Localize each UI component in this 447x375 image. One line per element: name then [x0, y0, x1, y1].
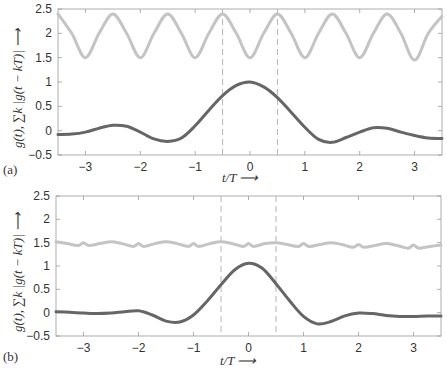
y-tick-label: 0.5	[33, 282, 50, 296]
panel-b-dashed-lines	[221, 196, 276, 336]
panel-b-series	[56, 242, 441, 324]
y-tick-label: 2	[43, 212, 50, 226]
x-tick-label: −1	[188, 160, 202, 174]
x-tick-label: 1	[302, 160, 309, 174]
y-tick-label: 0	[43, 306, 50, 320]
abs-sum-curve	[56, 242, 441, 249]
panel-a-ylabel: g(t), ∑k |g(t − kT)| ⟶	[10, 27, 25, 148]
y-tick-label: 1.5	[35, 51, 52, 65]
x-tick-label: 2	[356, 160, 363, 174]
y-tick-label: 0.5	[35, 99, 52, 113]
panel-b-label: (b)	[3, 349, 18, 364]
panel-a-xlabel: t/T ⟶	[222, 170, 259, 185]
y-tick-label: 1	[43, 259, 50, 273]
y-tick-label: 2.5	[35, 2, 52, 16]
x-tick-label: −2	[133, 160, 147, 174]
y-tick-label: 0	[45, 124, 52, 138]
panel-b-tick-labels: −3−2−10123−0.500.511.522.5	[26, 189, 417, 355]
x-tick-label: −2	[132, 341, 146, 355]
panel-a-series	[58, 14, 442, 142]
y-tick-label: −0.5	[26, 329, 50, 343]
figure: −3−2−10123−0.500.511.522.5 (a) t/T ⟶ g(t…	[0, 0, 447, 375]
panel-a-label: (a)	[3, 162, 17, 177]
g-curve	[58, 82, 442, 142]
panel-b-ylabel: g(t), ∑k |g(t − kT)| ⟶	[10, 211, 25, 332]
x-tick-label: −3	[77, 341, 91, 355]
x-tick-label: 3	[411, 160, 418, 174]
panel-b-xlabel: t/T ⟶	[220, 353, 257, 368]
x-tick-label: 3	[410, 341, 417, 355]
y-tick-label: −0.5	[28, 148, 52, 162]
x-tick-label: −1	[187, 341, 201, 355]
panel-b-plot: −3−2−10123−0.500.511.522.5	[26, 189, 441, 355]
y-tick-label: 1.5	[33, 236, 50, 250]
abs-sum-curve	[58, 14, 442, 60]
x-tick-label: 1	[300, 341, 307, 355]
y-tick-label: 1	[45, 75, 52, 89]
x-tick-label: −3	[79, 160, 93, 174]
panel-a-plot: −3−2−10123−0.500.511.522.5	[28, 2, 442, 174]
y-tick-label: 2	[45, 26, 52, 40]
y-tick-label: 2.5	[33, 189, 50, 203]
panel-a-tick-labels: −3−2−10123−0.500.511.522.5	[28, 2, 418, 174]
g-curve	[56, 263, 441, 324]
x-tick-label: 2	[355, 341, 362, 355]
